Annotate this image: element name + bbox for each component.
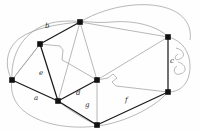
cotree-center-to-righttop: [97, 37, 168, 80]
edge-label-g: g: [85, 102, 89, 109]
tree-edge-g: [58, 101, 97, 125]
cotree-edge-group: [7, 5, 190, 127]
cotree-center-to-rightbottom: [97, 74, 168, 92]
edge-label-b: b: [45, 23, 49, 30]
graph-figure: b e a d g f c: [0, 0, 200, 132]
edge-label-a: a: [34, 95, 38, 102]
vertex-upper-left: [37, 41, 43, 47]
vertex-group: [9, 19, 171, 128]
tree-edge-group: [12, 22, 168, 125]
edge-label-f: f: [125, 97, 128, 104]
vertex-top: [77, 19, 83, 25]
edge-label-d: d: [76, 90, 80, 97]
edge-label-c: c: [170, 58, 174, 65]
vertex-left: [9, 77, 15, 83]
vertex-right-bottom: [165, 89, 171, 95]
cotree-right-bulge-lower: [174, 62, 185, 74]
tree-edge-f: [97, 92, 168, 125]
graph-canvas: [0, 0, 200, 132]
cotree-right-bulge-upper: [175, 48, 183, 60]
vertex-right-top: [165, 34, 171, 40]
cotree-left-arc: [7, 22, 80, 80]
vertex-bottom: [94, 122, 100, 128]
vertex-lower-left: [55, 98, 61, 104]
cotree-left-to-top: [12, 44, 40, 80]
vertex-center: [94, 77, 100, 83]
cotree-top-to-righttop: [80, 22, 168, 37]
edge-label-e: e: [39, 70, 43, 77]
